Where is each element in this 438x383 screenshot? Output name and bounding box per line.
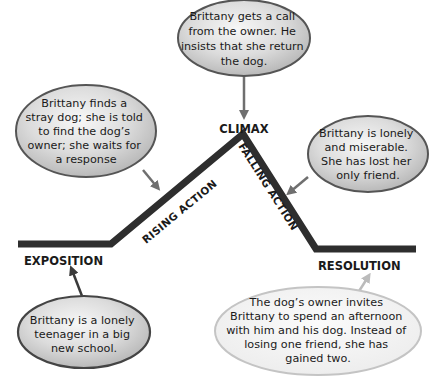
- rising-action-bubble-line: a response: [55, 153, 116, 166]
- plot-diagram-canvas: Brittany gets a call from the owner. He …: [0, 0, 438, 383]
- resolution-bubble-line: The dog’s owner invites: [248, 296, 383, 309]
- exposition-bubble-line: teenager in a big: [34, 328, 130, 341]
- climax-bubble: Brittany gets a call from the owner. He …: [178, 0, 310, 76]
- exposition-bubble-line: Brittany is a lonely: [30, 314, 135, 327]
- resolution-bubble-line: Brittany to spend an afternoon: [230, 310, 402, 323]
- rising-action-bubble-line: owner; she waits for: [27, 139, 141, 152]
- climax-label: CLIMAX: [219, 122, 268, 136]
- rising-action-bubble-line: Brittany finds a: [41, 97, 127, 110]
- resolution-bubble-line: gained two.: [285, 352, 350, 365]
- exposition-arrow-icon: [72, 270, 82, 296]
- exposition-label: EXPOSITION: [24, 254, 103, 268]
- climax-bubble-line: from the owner. He: [188, 25, 296, 38]
- climax-bubble-line: insists that she return: [181, 40, 304, 53]
- rising-action-bubble-line: to find the dog’s: [38, 125, 130, 138]
- climax-bubble-line: Brittany gets a call: [189, 10, 295, 23]
- resolution-bubble-line: with him and his dog. Instead of: [226, 324, 407, 337]
- falling-action-bubble-line: only friend.: [336, 169, 400, 182]
- resolution-label: RESOLUTION: [318, 259, 401, 273]
- exposition-bubble-line: new school.: [51, 342, 117, 355]
- rising-action-arrow-icon: [143, 170, 157, 187]
- falling-action-bubble-line: Brittany is lonely: [319, 127, 414, 140]
- rising-action-bubble-line: stray dog; she is told: [25, 111, 143, 124]
- falling-action-bubble-line: and miserable.: [325, 141, 408, 154]
- rising-action-bubble: Brittany finds a stray dog; she is told …: [16, 85, 156, 177]
- falling-action-arrow-icon: [290, 177, 308, 192]
- climax-bubble-line: the dog.: [221, 55, 268, 68]
- plot-diagram: Brittany gets a call from the owner. He …: [0, 0, 438, 383]
- falling-action-label: FALLING ACTION: [236, 141, 301, 233]
- falling-action-bubble-line: She has lost her: [321, 155, 412, 168]
- resolution-bubble: The dog’s owner invites Brittany to spen…: [215, 287, 421, 375]
- resolution-bubble-line: losing one friend, she has: [244, 338, 388, 351]
- exposition-bubble: Brittany is a lonely teenager in a big n…: [18, 296, 150, 368]
- falling-action-bubble: Brittany is lonely and miserable. She ha…: [308, 116, 428, 192]
